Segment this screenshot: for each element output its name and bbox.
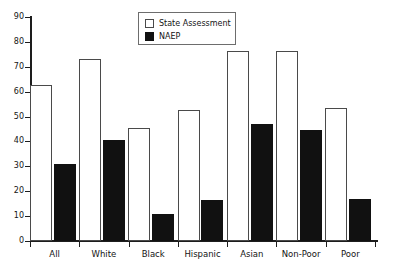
x-axis-tick [79,242,80,247]
x-axis-category-label: Asian [227,250,276,259]
y-axis-tick-label: 30 [0,162,24,170]
x-axis-tick [227,242,228,247]
bar-naep [54,164,76,241]
bar-naep [103,140,125,241]
x-axis-tick [178,242,179,247]
x-axis-category-label: Non-Poor [276,250,325,259]
bar-naep [251,124,273,241]
x-axis-tick [326,242,327,247]
bar-state-assessment [128,128,150,241]
y-axis-tick-label-text: 20 [2,187,24,195]
bar-group [326,17,375,241]
y-axis-tick-label: 20 [0,187,24,195]
bar-state-assessment [227,51,249,241]
y-axis-tick-label: 40 [0,137,24,145]
y-axis-tick-label-text: 60 [2,88,24,96]
y-axis-tick-label: 10 [0,212,24,220]
y-axis-tick-label-text: 0 [2,237,24,245]
bar-group [79,17,128,241]
y-axis-tick-label: 60 [0,88,24,96]
bar-state-assessment [276,51,298,241]
bar-group [129,17,178,241]
bar-group [178,17,227,241]
y-axis-tick-label-text: 30 [2,162,24,170]
y-axis-tick-label-text: 10 [2,212,24,220]
bar-chart: State Assessment NAEP 908070605040302010… [0,0,403,271]
y-axis-tick-label-text: 90 [2,13,24,21]
bar-naep [152,214,174,241]
x-axis-category-label: White [79,250,128,259]
bar-group [227,17,276,241]
bar-state-assessment [178,110,200,241]
x-axis-tick [375,242,376,247]
y-axis-tick-label: 0 [0,237,24,245]
x-axis-category-label: Black [129,250,178,259]
y-axis-tick-label-text: 70 [2,63,24,71]
y-axis-tick-label-text: 50 [2,113,24,121]
x-axis-category-label: Poor [326,250,375,259]
y-axis-tick-label-text: 80 [2,38,24,46]
y-axis-tick-label: 80 [0,38,24,46]
x-axis-tick [129,242,130,247]
bar-state-assessment [325,108,347,241]
bar-naep [201,200,223,241]
plot-area [30,17,375,241]
x-axis-category-label: All [30,250,79,259]
y-axis-tick-label: 70 [0,63,24,71]
x-axis-tick [30,242,31,247]
y-axis-tick-label-text: 40 [2,137,24,145]
x-axis-tick [276,242,277,247]
bar-naep [300,130,322,241]
bar-state-assessment [30,85,52,241]
bar-group [276,17,325,241]
bar-group [30,17,79,241]
y-axis-tick-label: 50 [0,113,24,121]
bar-state-assessment [79,59,101,241]
y-axis-tick-label: 90 [0,13,24,21]
x-axis-category-label: Hispanic [178,250,227,259]
bar-naep [349,199,371,241]
